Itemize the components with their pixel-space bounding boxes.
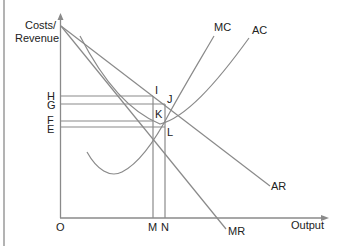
y-tick-G: G: [47, 99, 56, 111]
x-axis-label: Output: [291, 219, 324, 231]
y-axis-label-line2: Revenue: [15, 32, 59, 44]
x-tick-N: N: [161, 221, 169, 233]
y-tick-E: E: [47, 123, 54, 135]
y-axis-arrow-icon: [58, 13, 64, 20]
y-axis-label-line1: Costs/: [25, 19, 57, 31]
point-J: J: [167, 93, 173, 105]
origin-label: O: [56, 221, 65, 233]
x-tick-M: M: [148, 221, 157, 233]
cost-revenue-diagram: Costs/ Revenue H G F E I J K L MC AC AR …: [0, 0, 341, 250]
point-I: I: [155, 84, 158, 96]
point-L: L: [167, 126, 173, 138]
curve-label-MC: MC: [214, 21, 231, 33]
curve-label-AR: AR: [271, 180, 286, 192]
curve-label-MR: MR: [228, 225, 245, 237]
point-K: K: [155, 108, 163, 120]
mc-curve: [87, 36, 214, 174]
curve-label-AC: AC: [252, 24, 267, 36]
